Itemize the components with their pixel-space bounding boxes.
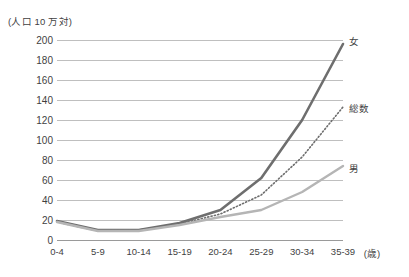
series-label-総数: 総数 bbox=[349, 101, 369, 115]
y-tick-label-40: 40 bbox=[13, 195, 53, 206]
x-tick-label-0-4: 0-4 bbox=[50, 246, 64, 257]
x-tick-label-35-39: 35-39 bbox=[331, 246, 355, 257]
x-tick-label-5-9: 5-9 bbox=[91, 246, 105, 257]
plot-area bbox=[57, 40, 343, 240]
y-tick-label-140: 140 bbox=[13, 95, 53, 106]
y-tick-label-180: 180 bbox=[13, 55, 53, 66]
x-axis-unit-label: (歳) bbox=[364, 246, 380, 260]
gridline-0 bbox=[57, 240, 343, 241]
y-tick-label-200: 200 bbox=[13, 35, 53, 46]
chart-container: (人口 10 万対) 200180160140120100806040200 0… bbox=[0, 0, 409, 277]
y-tick-label-120: 120 bbox=[13, 115, 53, 126]
y-tick-label-80: 80 bbox=[13, 155, 53, 166]
series-line-女 bbox=[57, 44, 343, 230]
y-tick-label-160: 160 bbox=[13, 75, 53, 86]
x-tick-label-20-24: 20-24 bbox=[208, 246, 232, 257]
series-label-女: 女 bbox=[349, 34, 359, 48]
y-axis-unit-label: (人口 10 万対) bbox=[8, 14, 72, 28]
x-tick-label-25-29: 25-29 bbox=[249, 246, 273, 257]
x-tick-label-15-19: 15-19 bbox=[167, 246, 191, 257]
series-label-男: 男 bbox=[349, 161, 359, 175]
y-tick-label-100: 100 bbox=[13, 135, 53, 146]
x-tick-label-30-34: 30-34 bbox=[290, 246, 314, 257]
y-tick-label-0: 0 bbox=[13, 235, 53, 246]
series-line-男 bbox=[57, 166, 343, 231]
series-line-総数 bbox=[57, 107, 343, 231]
x-tick-label-10-14: 10-14 bbox=[127, 246, 151, 257]
y-tick-label-20: 20 bbox=[13, 215, 53, 226]
y-tick-label-60: 60 bbox=[13, 175, 53, 186]
series-lines bbox=[57, 40, 343, 240]
